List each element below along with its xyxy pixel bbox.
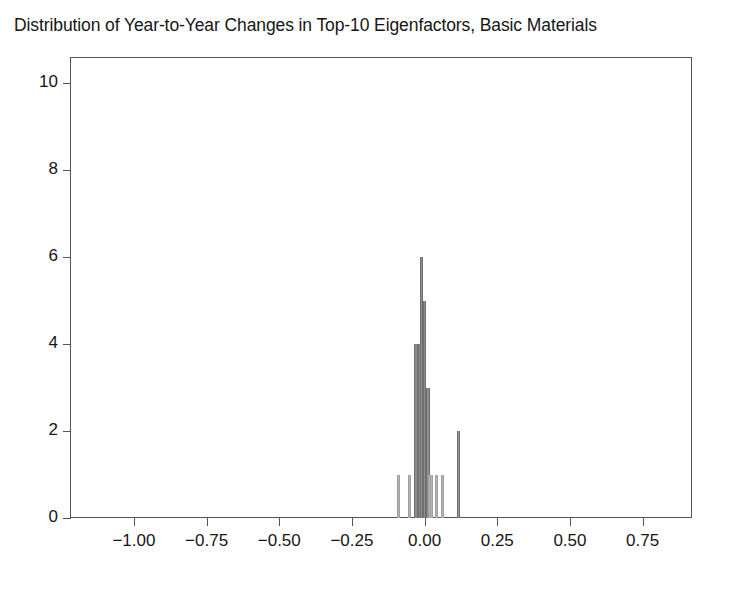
y-axis-tick: [63, 431, 71, 432]
y-axis-tick-label: 10: [20, 72, 58, 92]
y-axis-tick-label: 8: [20, 159, 58, 179]
histogram-figure: Distribution of Year-to-Year Changes in …: [0, 0, 734, 592]
x-axis-tick: [570, 518, 571, 526]
page-title: Distribution of Year-to-Year Changes in …: [14, 15, 597, 36]
y-axis-tick-label: 2: [20, 420, 58, 440]
histogram-bar: [457, 431, 460, 518]
x-axis-tick: [352, 518, 353, 526]
histogram-bar: [408, 475, 411, 518]
y-axis-tick: [63, 344, 71, 345]
y-axis-tick: [63, 83, 71, 84]
x-axis-tick: [207, 518, 208, 526]
x-axis-tick-label: 0.75: [598, 531, 688, 551]
histogram-bar: [435, 475, 438, 518]
x-axis-tick: [134, 518, 135, 526]
y-axis-tick-label: 6: [20, 246, 58, 266]
plot-area: [70, 57, 692, 518]
x-axis-tick: [643, 518, 644, 526]
x-axis-tick: [425, 518, 426, 526]
x-axis-tick: [279, 518, 280, 526]
y-axis-tick-label: 4: [20, 333, 58, 353]
y-axis-tick-label: 0: [20, 507, 58, 527]
y-axis-tick: [63, 518, 71, 519]
histogram-bar: [430, 475, 433, 518]
y-axis-tick: [63, 170, 71, 171]
histogram-bar: [397, 475, 400, 518]
histogram-bar: [441, 475, 444, 518]
y-axis-tick: [63, 257, 71, 258]
x-axis-tick: [497, 518, 498, 526]
